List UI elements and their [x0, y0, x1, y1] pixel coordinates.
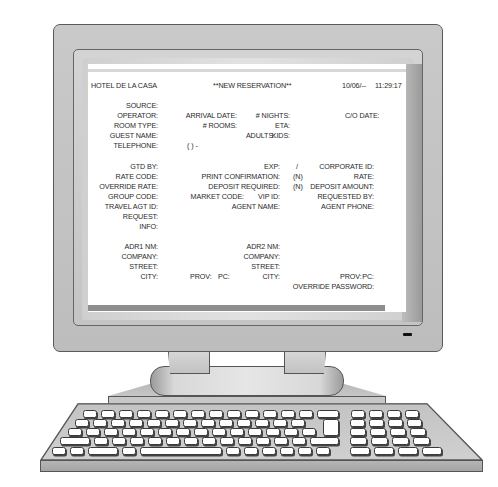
keyboard-key[interactable] — [369, 410, 383, 418]
keyboard-key[interactable] — [266, 428, 280, 436]
keyboard-key[interactable] — [201, 419, 215, 427]
keyboard-key[interactable] — [280, 447, 294, 455]
keyboard-key[interactable] — [184, 437, 198, 445]
keyboard-key[interactable] — [388, 419, 403, 427]
keyboard-key[interactable] — [52, 447, 66, 455]
keyboard-key[interactable] — [291, 419, 305, 427]
telephone-field[interactable]: ( ) - — [187, 142, 198, 150]
keyboard-key[interactable] — [158, 428, 172, 436]
keyboard-key[interactable] — [104, 428, 118, 436]
keyboard-key[interactable] — [68, 428, 82, 436]
keyboard-key[interactable] — [284, 428, 298, 436]
keyboard-key[interactable] — [405, 410, 419, 418]
keyboard-key[interactable] — [137, 410, 151, 418]
keyboard-key[interactable] — [371, 437, 388, 445]
keyboard-key[interactable] — [165, 419, 179, 427]
keyboard-key[interactable] — [212, 428, 226, 436]
keyboard-key[interactable] — [129, 419, 143, 427]
keyboard-key[interactable] — [281, 410, 295, 418]
keyboard-key[interactable] — [255, 419, 269, 427]
keyboard-key[interactable] — [350, 447, 370, 455]
keyboard-key[interactable] — [316, 447, 330, 455]
keyboard-key[interactable] — [263, 410, 277, 418]
keyboard-key[interactable] — [422, 447, 442, 455]
keyboard-key[interactable] — [244, 447, 258, 455]
keyboard-key[interactable] — [392, 437, 409, 445]
keyboard-key[interactable] — [220, 437, 234, 445]
label-city1: CITY: — [141, 273, 158, 281]
keyboard-key[interactable] — [94, 437, 108, 445]
deposit-required-field[interactable]: (N) — [293, 183, 303, 191]
keyboard-key[interactable] — [209, 410, 223, 418]
keyboard-key[interactable] — [176, 428, 190, 436]
keyboard-key[interactable] — [70, 447, 84, 455]
keyboard-key[interactable] — [60, 437, 90, 445]
keyboard-key[interactable] — [237, 419, 251, 427]
keyboard-key[interactable] — [140, 428, 154, 436]
label-deposit-amount: DEPOSIT AMOUNT: — [310, 183, 374, 191]
keyboard-key[interactable] — [230, 428, 244, 436]
exp-field[interactable]: / — [296, 163, 298, 171]
keyboard-key[interactable] — [202, 437, 216, 445]
keyboard-key[interactable] — [387, 410, 401, 418]
label-city2: CITY: — [263, 273, 280, 281]
keyboard-key[interactable] — [83, 410, 97, 418]
keyboard-key[interactable] — [238, 437, 252, 445]
keyboard-key[interactable] — [302, 428, 316, 436]
screen-title: **NEW RESERVATION** — [213, 82, 291, 90]
keyboard-key[interactable] — [130, 437, 144, 445]
keyboard-key[interactable] — [374, 447, 394, 455]
keyboard-key[interactable] — [183, 419, 197, 427]
keyboard-key[interactable] — [147, 419, 161, 427]
label-rate: RATE: — [354, 173, 374, 181]
keyboard-key[interactable] — [248, 428, 262, 436]
keyboard-key[interactable] — [350, 419, 365, 427]
keyboard-key[interactable] — [292, 437, 306, 445]
keyboard-key[interactable] — [410, 428, 426, 436]
keyboard-key[interactable] — [112, 437, 126, 445]
keyboard-key[interactable] — [93, 419, 107, 427]
keyboard-key[interactable] — [323, 419, 339, 436]
keyboard-key[interactable] — [398, 447, 418, 455]
keyboard-key[interactable] — [75, 419, 89, 427]
keyboard-key[interactable] — [350, 428, 366, 436]
keyboard-key[interactable] — [194, 428, 208, 436]
keyboard-key[interactable] — [369, 419, 384, 427]
keyboard-key[interactable] — [101, 410, 115, 418]
keyboard-key[interactable] — [350, 437, 367, 445]
keyboard-key[interactable] — [299, 410, 313, 418]
keyboard-key[interactable] — [86, 428, 100, 436]
keyboard-key[interactable] — [262, 447, 276, 455]
keyboard-key[interactable] — [173, 410, 187, 418]
keyboard-key[interactable] — [219, 419, 233, 427]
keyboard-key[interactable] — [298, 447, 312, 455]
keyboard-key[interactable] — [273, 419, 287, 427]
keyboard-key[interactable] — [148, 437, 162, 445]
label-telephone: TELEPHONE: — [113, 142, 158, 150]
keyboard-key[interactable] — [226, 447, 240, 455]
keyboard-key[interactable] — [413, 437, 430, 445]
keyboard-key[interactable] — [390, 428, 406, 436]
keyboard-key[interactable] — [119, 410, 133, 418]
keyboard-key[interactable] — [245, 410, 259, 418]
print-confirmation-field[interactable]: (N) — [293, 173, 303, 181]
keyboard-key[interactable] — [274, 437, 288, 445]
keyboard-key[interactable] — [122, 447, 136, 455]
label-travel-agt-id: TRAVEL AGT ID: — [105, 203, 158, 211]
keyboard-key[interactable] — [407, 419, 422, 427]
keyboard-key[interactable] — [166, 437, 180, 445]
keyboard-key[interactable] — [370, 428, 386, 436]
label-operator: OPERATOR: — [117, 112, 158, 120]
keyboard-key[interactable] — [155, 410, 169, 418]
keyboard-key[interactable] — [140, 447, 222, 455]
keyboard-key[interactable] — [351, 410, 365, 418]
keyboard-key[interactable] — [88, 447, 118, 455]
keyboard-key[interactable] — [111, 419, 125, 427]
keyboard-key[interactable] — [191, 410, 205, 418]
keyboard-key[interactable] — [122, 428, 136, 436]
keyboard-key[interactable] — [317, 410, 339, 418]
keyboard-key[interactable] — [227, 410, 241, 418]
keyboard-key[interactable] — [310, 437, 339, 445]
keyboard-key[interactable] — [256, 437, 270, 445]
screen-top-line — [88, 69, 406, 72]
